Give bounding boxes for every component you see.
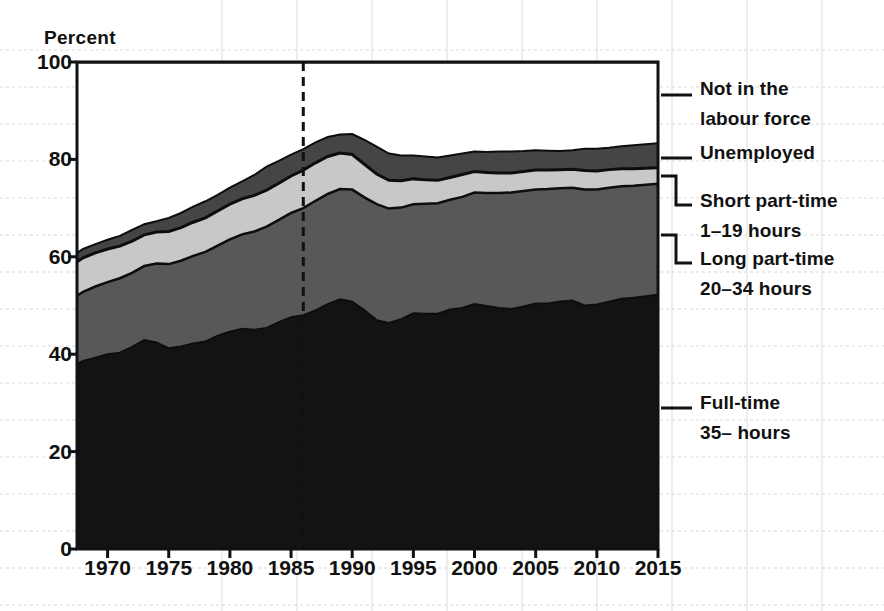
legend-label-short_part_time: Short part-time [700,190,838,212]
legend-leader-long_part_time [661,235,692,263]
x-tick-label-2005: 2005 [512,556,559,580]
legend-sublabel-long_part_time: 20–34 hours [700,278,812,300]
y-tick-label-100: 100 [37,50,72,74]
x-tick-label-1980: 1980 [207,556,254,580]
x-tick-label-2000: 2000 [451,556,498,580]
legend-label-long_part_time: Long part-time [700,248,834,270]
x-tick-label-1975: 1975 [145,556,192,580]
y-tick-label-60: 60 [49,245,72,269]
x-tick-label-1970: 1970 [84,556,131,580]
legend-label-not_in_labour_force: Not in the [700,78,789,100]
y-tick-label-40: 40 [49,342,72,366]
legend-sublabel-short_part_time: 1–19 hours [700,220,801,242]
x-tick-label-1995: 1995 [390,556,437,580]
legend-leader-short_part_time [661,176,692,205]
x-tick-label-2015: 2015 [635,556,682,580]
y-tick-label-80: 80 [49,147,72,171]
legend-label-full_time: Full-time [700,392,780,414]
legend-label-unemployed: Unemployed [700,142,815,164]
legend-leader-lines [661,95,692,408]
x-tick-label-2010: 2010 [573,556,620,580]
legend-sublabel-full_time: 35– hours [700,422,791,444]
y-axis-tick-labels: 020406080100 [0,0,72,611]
legend-sublabel-not_in_labour_force: labour force [700,108,811,130]
y-tick-label-20: 20 [49,440,72,464]
stacked-area-chart: Percent 020406080100 1970197519801985199… [0,0,884,611]
x-tick-label-1985: 1985 [268,556,315,580]
area-layers [77,62,658,549]
y-tick-label-0: 0 [60,537,72,561]
x-tick-label-1990: 1990 [329,556,376,580]
